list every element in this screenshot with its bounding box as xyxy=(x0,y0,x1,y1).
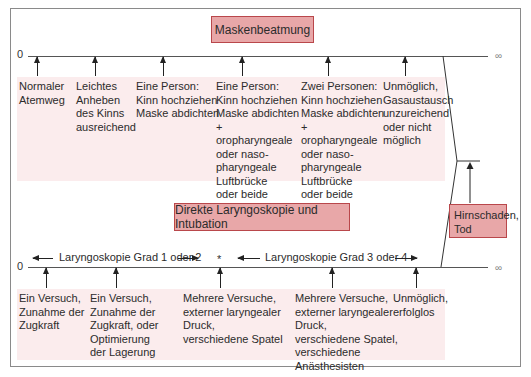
outcome-box: Hirnschaden, Tod xyxy=(449,204,507,238)
outcome-connector xyxy=(0,0,531,377)
